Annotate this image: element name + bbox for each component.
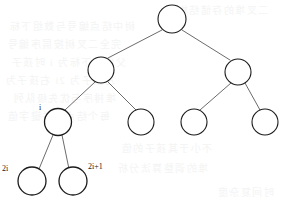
tree-diagram-canvas [0, 0, 286, 203]
tree-edge [200, 83, 231, 110]
tree-node-level2-left [88, 57, 114, 83]
tree-edge [65, 82, 95, 110]
tree-edge [245, 83, 260, 110]
tree-edge [108, 30, 162, 58]
binary-heap-tree-figure: 二叉堆的存储结构树中结点编号与数组下标完全二叉树按层序编号父结点下标为 i 时孩… [0, 0, 286, 203]
tree-node-level2-right [225, 59, 251, 85]
tree-edge [108, 82, 136, 110]
label-2i: 2i [2, 165, 8, 173]
tree-node-node-i [45, 109, 72, 136]
label-2i1: 2i+1 [88, 163, 103, 171]
tree-node-level3-d [252, 109, 278, 135]
tree-edge [39, 135, 53, 169]
tree-node-level3-c [181, 109, 207, 135]
label-i: i [39, 104, 41, 112]
tree-node-group [18, 5, 278, 195]
tree-node-node-2i1 [59, 167, 87, 195]
tree-edge [182, 30, 230, 60]
tree-node-level3-b [128, 109, 154, 135]
tree-node-node-2i [18, 167, 46, 195]
tree-node-root [158, 5, 186, 33]
tree-edge-group [39, 30, 260, 169]
tree-edge [62, 135, 69, 169]
